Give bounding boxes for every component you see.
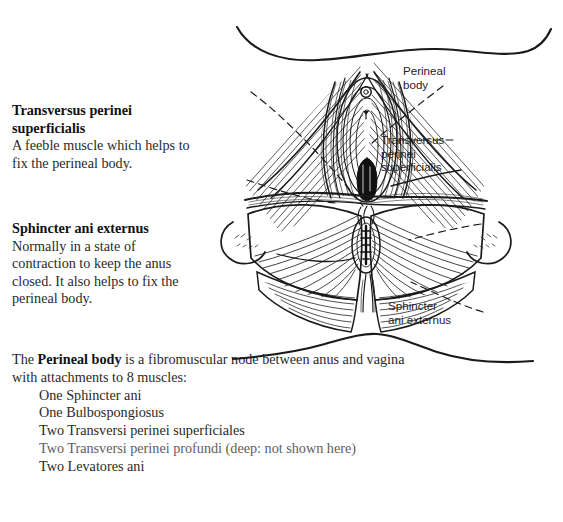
muscle-list-item: Two Transversi perinei superficiales — [39, 422, 432, 440]
leader-levator — [409, 224, 481, 240]
muscle-list-item: Two Transversi perinei profundi (deep: n… — [39, 440, 432, 458]
perineum-diagram: Perineal body Transversus perinei superf… — [185, 0, 563, 400]
note-body: A feeble muscle which helps to fix the p… — [12, 137, 197, 172]
label-transversus-perinei-superficialis: Transversus perinei superficialis — [381, 133, 444, 174]
label-perineal-body: Perineal body — [403, 64, 446, 91]
lower-contour — [233, 334, 533, 362]
label-sphincter-ani-externus: Sphincter ani externus — [388, 299, 451, 326]
muscle-list-item: Two Levatores ani — [39, 458, 432, 476]
lead-before: The — [12, 351, 38, 367]
note-transversus-perinei: Transversus perinei superficialis A feeb… — [12, 102, 197, 172]
note-heading: Transversus perinei superficialis — [12, 102, 197, 137]
note-sphincter-ani-externus: Sphincter ani externus Normally in a sta… — [12, 220, 197, 308]
perineum-illustration — [185, 0, 563, 400]
lead-bold-term: Perineal body — [38, 351, 122, 367]
note-heading: Sphincter ani externus — [12, 220, 197, 238]
muscle-list-item: One Bulbospongiosus — [39, 404, 432, 422]
page-root: Transversus perinei superficialis A feeb… — [0, 0, 563, 522]
upper-contour — [237, 27, 551, 60]
note-body: Normally in a state of contraction to ke… — [12, 238, 197, 308]
